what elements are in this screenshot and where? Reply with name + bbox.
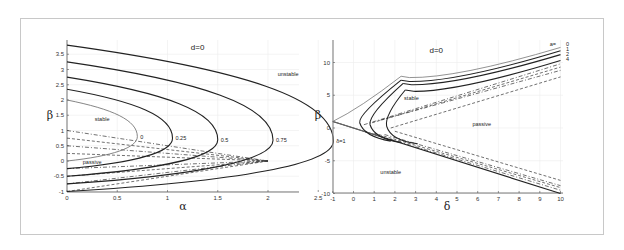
figure-canvas: 00.511.522.5-1-0.500.511.522.533.500.250… [0,0,624,250]
dashed-line [374,133,560,187]
left-chart-alpha-beta: 00.511.522.5-1-0.500.511.522.533.500.250… [47,40,346,213]
x-tick-label: -1 [330,196,336,202]
annotation-unstable: unstable [380,169,401,175]
dashed-line [364,64,561,125]
annotation-unstable: unstable [278,71,299,77]
annotation-d0: d=0 [430,46,444,55]
curve-a-4-upper [405,61,560,92]
curve-a-0 [333,76,401,138]
x-tick-label: 4 [435,196,439,202]
curve-0.25 [67,89,173,168]
x-tick-label: 8 [517,196,521,202]
x-axis-label: δ [444,200,451,213]
curve-label: 0.5 [221,137,229,143]
annotation-d0: d=0 [191,43,205,52]
y-tick-label: 3 [61,67,65,73]
x-tick-label: 6 [476,196,480,202]
y-tick-label: 0.5 [56,143,65,149]
x-tick-label: 0 [65,195,69,201]
x-axis-label: α [179,200,187,213]
annotation-stable: stable [95,116,110,122]
right-chart-delta-beta: -1012345678910-10-50510a=0124stablepassi… [315,40,569,213]
x-tick-label: 3 [414,196,418,202]
legend-title: a= [550,41,556,47]
x-tick-label: 10 [557,196,564,202]
x-tick-label: 9 [538,196,542,202]
x-tick-label: 2 [266,195,270,201]
annotation-stable: stable [404,95,419,101]
x-tick-label: 5 [455,196,459,202]
y-tick-label: 1.5 [56,112,65,118]
y-tick-label: 5 [327,92,331,98]
y-tick-label: 2 [61,97,65,103]
y-tick-label: -10 [321,191,330,197]
curve-a-2-upper [403,55,560,85]
y-axis-label: β [315,109,321,122]
annotation-passive: passive [83,159,102,165]
y-tick-label: -0.5 [54,173,65,179]
y-axis-label: β [47,109,53,122]
x-tick-label: 7 [497,196,501,202]
y-tick-label: 3.5 [56,51,65,57]
x-tick-label: 0 [352,196,356,202]
x-tick-label: 1.5 [214,195,223,201]
stability-curves [333,47,561,143]
y-tick-label: 0 [61,158,65,164]
x-tick-label: 2 [393,196,397,202]
annotation-passive: passive [473,121,492,127]
curve-label: 0.25 [176,135,187,141]
x-tick-label: 0.5 [113,195,122,201]
grid [333,40,563,194]
legend-item: 4 [566,56,569,62]
y-tick-label: -1 [59,189,65,195]
x-tick-label: 1 [166,195,170,201]
curve-label: 0 [140,134,143,140]
x-tick-label: 1 [373,196,377,202]
y-tick-label: 2.5 [56,82,65,88]
curve-label: 0.75 [276,137,287,143]
y-tick-label: 1 [61,128,65,134]
y-tick-label: -5 [325,158,331,164]
y-tick-label: 10 [323,60,330,66]
curve-label: δ=1 [336,138,345,144]
